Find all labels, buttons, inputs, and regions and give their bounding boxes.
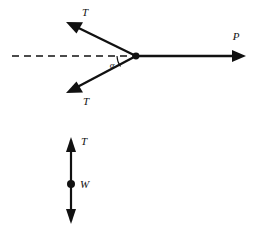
tension-vector-lower-shaft (74, 56, 137, 89)
weight-vector-down-arrowhead (66, 209, 76, 224)
junction-vertex-node (133, 53, 140, 60)
force-diagram-figure: T T P α T W (0, 0, 258, 230)
weight-equilibrium-diagram: T W (66, 135, 90, 224)
tension-vector-lower (66, 56, 136, 93)
tension-vector-upper (66, 22, 136, 56)
weight-particle-node (67, 180, 75, 188)
tension-vector-up-arrowhead (66, 137, 76, 152)
label-tension-vertical: T (81, 135, 88, 147)
label-applied-force-p: P (232, 30, 240, 42)
tension-vector-upper-shaft (74, 26, 137, 57)
label-tension-upper: T (82, 6, 89, 18)
tension-vector-lower-arrowhead (66, 82, 83, 94)
applied-force-vector-p-arrowhead (232, 50, 246, 62)
applied-force-vector-p (136, 50, 246, 62)
label-weight: W (80, 178, 90, 190)
diagram-canvas: T T P α T W (0, 0, 258, 230)
label-tension-lower: T (83, 95, 90, 107)
label-angle-alpha: α (110, 60, 115, 70)
cable-junction-force-diagram: T T P α (12, 6, 246, 107)
